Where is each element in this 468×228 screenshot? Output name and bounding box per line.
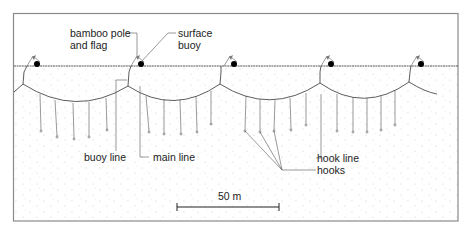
label-hooks: hooks [317,164,345,176]
flag-icon [229,55,233,60]
surface-buoy-icon [328,61,334,67]
flag-icon [326,55,330,60]
surface-buoy-icon [418,61,424,67]
scale-label: 50 m [218,190,242,202]
label-main-line: main line [153,151,195,163]
label-buoy: buoy [178,39,202,51]
surface-buoy-icon [231,61,237,67]
flag-icon [32,55,36,60]
label-bamboo-pole: bamboo pole [70,27,131,39]
label-and-flag: and flag [70,39,108,51]
surface-buoy-icon [34,61,40,67]
label-hook-line: hook line [317,152,359,164]
longline-diagram: bamboo pole and flag surface buoy buoy l… [0,0,468,228]
flag-icon [136,55,140,60]
label-buoy-line: buoy line [84,151,126,163]
label-surface: surface [178,27,213,39]
flag-icon [416,55,420,60]
